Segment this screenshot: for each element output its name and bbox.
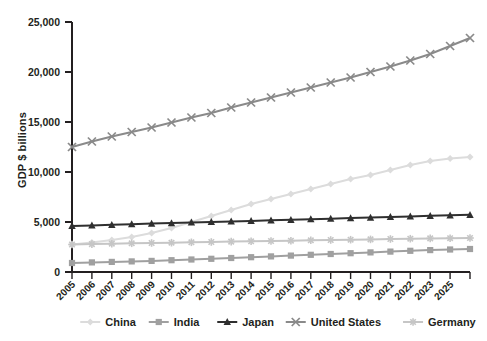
- data-point-marker: [156, 319, 162, 325]
- data-point-marker: [348, 250, 354, 256]
- y-axis-tick-label: 5,000: [34, 216, 60, 228]
- data-point-marker: [168, 239, 176, 247]
- data-point-marker: [69, 260, 75, 266]
- data-point-marker: [367, 236, 375, 244]
- data-point-marker: [387, 235, 395, 243]
- data-point-marker: [467, 246, 473, 252]
- data-point-marker: [208, 238, 216, 246]
- data-point-marker: [128, 240, 136, 248]
- y-axis-tick-label: 0: [54, 266, 60, 278]
- legend-label: United States: [311, 316, 381, 328]
- data-point-marker: [407, 235, 415, 243]
- data-point-marker: [268, 253, 274, 259]
- data-point-marker: [88, 240, 96, 248]
- data-point-marker: [208, 256, 214, 262]
- legend-label: India: [174, 316, 201, 328]
- data-point-marker: [347, 236, 355, 244]
- data-point-marker: [327, 236, 335, 244]
- data-point-marker: [89, 259, 95, 265]
- data-point-marker: [228, 255, 234, 261]
- data-point-marker: [409, 318, 417, 326]
- chart-canvas: GDP $ billions 05,00010,00015,00020,0002…: [0, 0, 487, 341]
- gdp-line-chart: GDP $ billions 05,00010,00015,00020,0002…: [0, 0, 487, 341]
- data-point-marker: [446, 234, 454, 242]
- data-point-marker: [287, 237, 295, 245]
- data-point-marker: [148, 239, 156, 247]
- legend-label: Germany: [428, 316, 477, 328]
- legend-label: Japan: [242, 316, 274, 328]
- data-point-marker: [227, 238, 235, 246]
- data-point-marker: [407, 248, 413, 254]
- data-point-marker: [168, 257, 174, 263]
- data-point-marker: [307, 237, 315, 245]
- data-point-marker: [387, 249, 393, 255]
- data-point-marker: [308, 252, 314, 258]
- data-point-marker: [328, 251, 334, 257]
- data-point-marker: [426, 235, 434, 243]
- y-axis-title: GDP $ billions: [16, 112, 28, 188]
- data-point-marker: [288, 253, 294, 259]
- legend-label: China: [105, 316, 136, 328]
- y-axis-tick-label: 25,000: [28, 16, 60, 28]
- data-point-marker: [188, 256, 194, 262]
- y-axis-tick-label: 20,000: [28, 66, 60, 78]
- data-point-marker: [68, 241, 76, 249]
- data-point-marker: [108, 240, 116, 248]
- y-axis-tick-label: 15,000: [28, 116, 60, 128]
- data-point-marker: [247, 238, 255, 246]
- y-axis-tick-label: 10,000: [28, 166, 60, 178]
- data-point-marker: [248, 254, 254, 260]
- data-point-marker: [447, 246, 453, 252]
- data-point-marker: [188, 239, 196, 247]
- data-point-marker: [149, 258, 155, 264]
- data-point-marker: [267, 237, 275, 245]
- data-point-marker: [109, 259, 115, 265]
- data-point-marker: [129, 258, 135, 264]
- data-point-marker: [427, 247, 433, 253]
- data-point-marker: [466, 234, 474, 242]
- data-point-marker: [367, 249, 373, 255]
